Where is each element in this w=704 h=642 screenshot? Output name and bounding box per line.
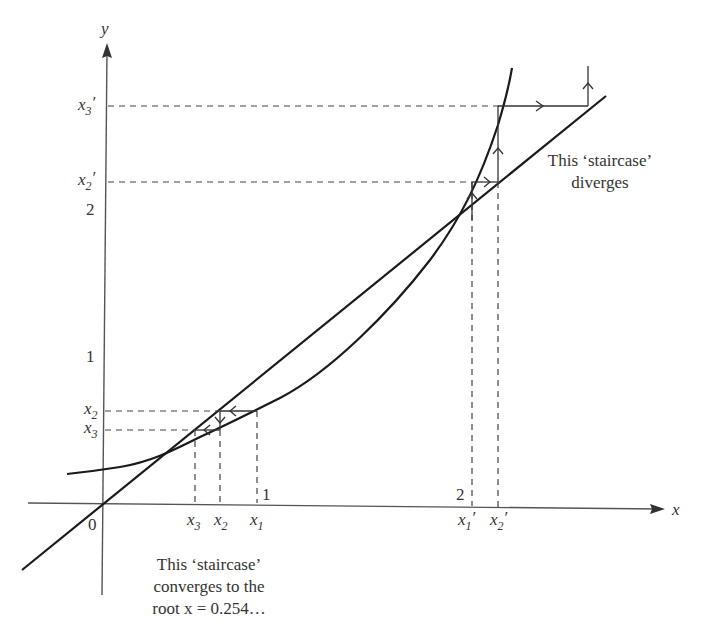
converging-staircase xyxy=(195,406,257,435)
x-axis-labels: x3 x2 x1 x1′ x2′ xyxy=(186,508,508,533)
label-x3-x: x3 xyxy=(186,510,201,533)
x-axis-arrowhead-icon xyxy=(650,504,665,514)
svg-text:This ‘staircase’: This ‘staircase’ xyxy=(157,555,261,574)
y-axis xyxy=(102,50,107,595)
svg-text:diverges: diverges xyxy=(571,173,628,192)
svg-text:converges to the: converges to the xyxy=(153,577,264,596)
diverging-staircase xyxy=(467,66,593,220)
converging-guides xyxy=(105,411,257,503)
label-x2-prime-x: x2′ xyxy=(489,508,508,533)
x-axis-label: x xyxy=(671,500,680,519)
diverge-annotation: This ‘staircase’ diverges xyxy=(548,151,652,192)
label-x2-prime-y: x2′ xyxy=(77,168,96,193)
label-x2-x: x2 xyxy=(213,510,228,533)
cobweb-diagram: x y 0 1 2 1 2 xyxy=(0,0,704,642)
x-tick-2: 2 xyxy=(456,485,465,504)
function-curve xyxy=(67,68,512,474)
svg-text:root x = 0.254…: root x = 0.254… xyxy=(152,599,265,618)
svg-text:This ‘staircase’: This ‘staircase’ xyxy=(548,151,652,170)
line-y-equals-x xyxy=(22,96,606,570)
label-x1-prime-x: x1′ xyxy=(457,508,476,533)
y-axis-labels: x3′ x2′ x2 x3 xyxy=(77,93,98,441)
y-tick-2: 2 xyxy=(86,200,95,219)
x-tick-1: 1 xyxy=(262,485,271,504)
label-x1-x: x1 xyxy=(249,510,264,533)
converge-annotation: This ‘staircase’ converges to the root x… xyxy=(152,555,265,618)
y-tick-1: 1 xyxy=(86,347,95,366)
diverging-guides xyxy=(108,106,500,507)
y-axis-arrowhead-icon xyxy=(102,43,112,58)
y-axis-label: y xyxy=(99,19,109,38)
label-x3-prime-y: x3′ xyxy=(77,93,96,118)
x-axis xyxy=(28,503,660,509)
origin-label: 0 xyxy=(88,515,97,534)
